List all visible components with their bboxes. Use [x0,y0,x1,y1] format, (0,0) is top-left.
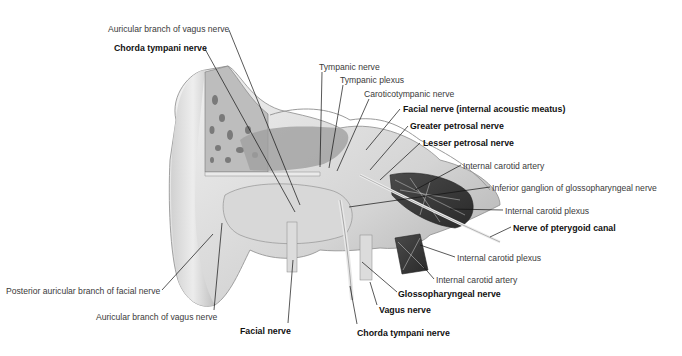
anatomy-diagram: Auricular branch of vagus nerve Chorda t… [0,0,682,356]
label-glossopharyngeal-nerve: Glossopharyngeal nerve [398,289,501,299]
label-facial-nerve: Facial nerve [240,326,291,336]
label-tympanic-nerve: Tympanic nerve [319,62,380,72]
label-internal-carotid-plexus-bottom: Internal carotid plexus [457,253,541,263]
label-inferior-ganglion: Inferior ganglion of glossopharyngeal ne… [492,183,657,193]
label-caroticotympanic-nerve: Caroticotympanic nerve [364,89,454,99]
label-lesser-petrosal: Lesser petrosal nerve [423,138,514,148]
label-chorda-tympani-bottom: Chorda tympani nerve [357,328,450,338]
label-auricular-branch-vagus-top: Auricular branch of vagus nerve [108,24,229,34]
label-internal-carotid-artery-bottom: Internal carotid artery [436,275,517,285]
label-tympanic-plexus: Tympanic plexus [340,75,404,85]
label-internal-carotid-artery-top: Internal carotid artery [463,161,544,171]
facial-nerve-trunk [287,222,297,272]
label-posterior-auricular-branch: Posterior auricular branch of facial ner… [6,286,160,296]
ear-illustration [0,0,682,356]
label-vagus-nerve: Vagus nerve [379,305,431,315]
label-auricular-branch-vagus-bottom: Auricular branch of vagus nerve [96,312,217,322]
label-nerve-pterygoid-canal: Nerve of pterygoid canal [513,223,616,233]
label-greater-petrosal: Greater petrosal nerve [410,121,504,131]
vagus-nerve-trunk [360,235,372,280]
label-chorda-tympani-top: Chorda tympani nerve [114,43,207,53]
label-internal-carotid-plexus-top: Internal carotid plexus [505,206,589,216]
label-facial-nerve-iam: Facial nerve (internal acoustic meatus) [403,104,565,114]
